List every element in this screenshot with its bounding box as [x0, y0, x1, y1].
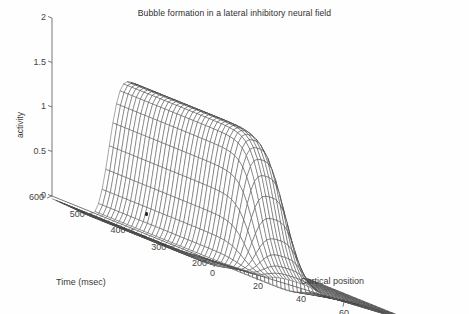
axis-line [48, 195, 52, 197]
axis-tick-label: 0.5 [33, 146, 46, 156]
y-axis-label: Time (msec) [56, 277, 106, 287]
axis-tick-label: 1.5 [33, 57, 46, 67]
axis-tick-label: 20 [253, 281, 263, 291]
axis-line [48, 61, 52, 63]
axis-line [48, 150, 52, 152]
surface-plot-canvas [0, 0, 469, 314]
axis-line [343, 302, 344, 307]
axis-tick-label: 200 [192, 258, 207, 268]
axis-tick-label: 1 [41, 101, 46, 111]
axis-tick-label: 0 [210, 268, 215, 278]
chart-title: Bubble formation in a lateral inhibitory… [0, 8, 469, 18]
axis-tick-label: 400 [110, 225, 125, 235]
scan-artifact-speck [145, 212, 148, 216]
axis-tick-label: 500 [70, 209, 85, 219]
axis-line [47, 196, 52, 198]
figure-3d-surface-plot: Bubble formation in a lateral inhibitory… [0, 0, 469, 314]
x-axis-label: Cortical position [300, 276, 364, 286]
axis-line [48, 106, 52, 108]
axis-tick-label: 600 [29, 192, 44, 202]
axis-tick-label: 300 [151, 242, 166, 252]
z-axis-label: activity [15, 95, 25, 155]
axis-tick-label: 2 [41, 12, 46, 22]
axis-tick-label: 60 [339, 308, 349, 314]
axis-tick-label: 40 [296, 294, 306, 304]
